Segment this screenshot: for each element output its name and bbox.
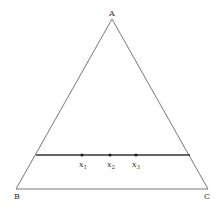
point-label-x3: x3: [132, 160, 141, 170]
vertex-label-c: C: [204, 192, 210, 201]
vertex-label-b: B: [14, 192, 20, 201]
triangle-diagram: A B C x1 x2 x3: [0, 0, 222, 215]
point-x3: [134, 153, 137, 156]
point-x2: [108, 153, 111, 156]
point-x1: [80, 153, 83, 156]
vertex-label-a: A: [108, 9, 115, 18]
point-label-x1: x1: [79, 160, 87, 170]
point-label-x2: x2: [107, 160, 115, 170]
